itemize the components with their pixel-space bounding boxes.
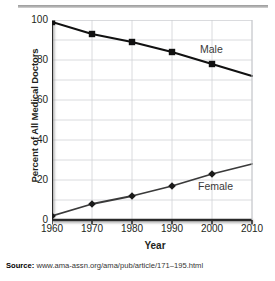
- source-url: www.ama-assn.org/ama/pub/article/171–195…: [36, 261, 203, 270]
- figure-container: Percent of All Medical Doctors 100 80 60…: [0, 0, 275, 281]
- top-divider-rule: [18, 5, 268, 8]
- data-point-male-1970: [89, 31, 95, 37]
- source-caption: Source: www.ama-assn.org/ama/pub/article…: [6, 261, 203, 271]
- y-axis-tick-labels: 100 80 60 40 20 0: [18, 20, 48, 220]
- chart-svg: [52, 20, 258, 226]
- y-tick-label: 60: [22, 95, 48, 105]
- y-tick-label: 80: [22, 55, 48, 65]
- series-label-male: Male: [200, 43, 223, 55]
- data-point-male-1960: [52, 20, 55, 25]
- data-point-male-2000: [209, 61, 215, 67]
- x-tick-label: 1980: [110, 223, 154, 234]
- y-tick-label: 40: [22, 135, 48, 145]
- x-axis-tick-labels: 1960 1970 1980 1990 2000 2010: [52, 223, 258, 237]
- data-point-male-1980: [129, 39, 135, 45]
- series-label-female: Female: [198, 180, 233, 192]
- data-point-male-1990: [169, 49, 175, 55]
- source-label: Source:: [6, 261, 34, 270]
- x-tick-label: 1970: [70, 223, 114, 234]
- x-tick-label: 2000: [190, 223, 234, 234]
- x-tick-label: 1990: [150, 223, 194, 234]
- y-tick-label: 20: [22, 175, 48, 185]
- y-tick-label: 100: [22, 15, 48, 25]
- x-tick-label: 1960: [30, 223, 74, 234]
- x-axis-title: Year: [52, 240, 258, 251]
- x-tick-label: 2010: [230, 223, 274, 234]
